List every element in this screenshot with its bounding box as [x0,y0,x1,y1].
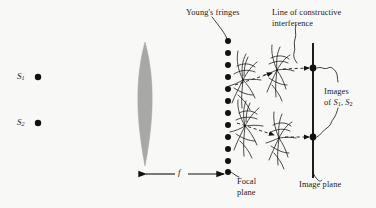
label-focal-plane-row1: Focal [237,177,256,188]
label-source-s1-sub: 1 [22,74,25,81]
label-images-row2: of S1, S2 [324,98,353,109]
label-source-s2: S2 [17,117,25,129]
label-youngs-fringes-text: Young's fringes [186,8,240,17]
label-focal-plane: Focal plane [237,177,256,199]
label-source-s2-sub: 2 [22,120,25,127]
label-images-of-sources: Images of S1, S2 [324,87,353,109]
fringe-cluster-upper-far [264,45,294,101]
ray-arrow-lower-1 [237,123,274,135]
label-line-of-constructive-interference: Line of constructive interference [272,8,341,30]
leader-youngs-fringes [212,17,227,39]
label-images-of-word: of [324,98,333,107]
fringe-cluster-upper-near [229,51,261,110]
label-youngs-fringes: Young's fringes [186,8,240,19]
ray-arrow-upper-2 [283,68,309,69]
optics-diagram-figure: S1 S2 f Young's fringes Line of construc… [0,0,376,208]
fringe-cluster-lower-far [266,112,296,169]
source-point-s2 [35,120,41,126]
label-focal-length-text: f [178,167,181,177]
leader-images-upper [317,67,338,82]
diagram-canvas [0,0,376,208]
label-images-s2-sub: 2 [350,100,353,107]
label-line-constructive-row2: interference [272,19,341,30]
label-focal-length: f [178,167,181,179]
source-point-s1 [35,74,41,80]
image-point-of-s1 [310,65,317,72]
image-point-of-s2 [310,134,317,141]
label-image-plane: Image plane [299,180,341,191]
leader-line-constructive [294,25,297,63]
label-source-s1: S1 [17,71,25,83]
converging-lens [138,42,152,166]
label-line-constructive-row1: Line of constructive [272,8,341,19]
fringe-cluster-lower-near [230,100,263,158]
focal-plane-dotted-line [225,38,231,175]
leader-images-lower [317,108,338,137]
label-image-plane-text: Image plane [299,180,341,189]
label-images-row1: Images [324,87,353,98]
source-points [35,74,41,126]
label-focal-plane-row2: plane [237,188,256,199]
